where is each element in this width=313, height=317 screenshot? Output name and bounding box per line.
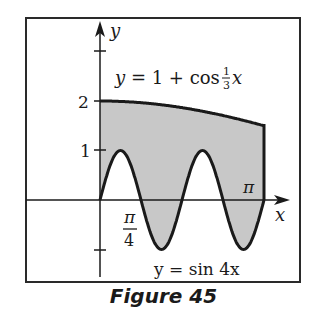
upper-frac-den: 3	[223, 79, 230, 92]
y-tick-label-2: 2	[78, 92, 89, 112]
upper-frac-num: 1	[223, 65, 230, 78]
lower-curve-equation: y = sin 4x	[153, 259, 240, 279]
y-axis-label: y	[109, 20, 121, 41]
shaded-region	[100, 101, 264, 250]
pi-label: π	[242, 177, 255, 197]
y-tick-label-1: 1	[80, 141, 91, 161]
upper-var: x	[232, 67, 242, 88]
upper-curve-equation: y = 1 + cos	[114, 67, 220, 88]
pi-over-4-numerator: π	[123, 207, 136, 227]
x-axis-label: x	[275, 204, 285, 225]
figure-caption: Figure 45	[0, 284, 313, 308]
pi-over-4-denominator: 4	[124, 231, 134, 250]
figure-graph: y x 2 1 π 4 π y = 1 + cos 1 3 x y = sin …	[0, 0, 313, 317]
